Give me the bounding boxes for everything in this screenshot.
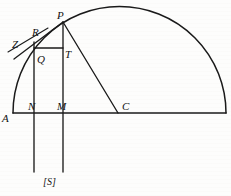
point-label-M: M — [57, 101, 66, 112]
point-label-S: [S] — [43, 177, 56, 187]
point-label-C: C — [122, 101, 129, 112]
segment-PC — [63, 22, 118, 113]
point-label-T: T — [65, 49, 71, 60]
geometry-figure: P R Z T Q N M C A [S] — [0, 0, 231, 196]
point-label-Q: Q — [37, 54, 45, 65]
point-label-Z: Z — [12, 39, 18, 50]
point-label-P: P — [57, 10, 64, 21]
point-label-A: A — [2, 113, 9, 124]
point-label-R: R — [32, 27, 39, 38]
point-label-N: N — [28, 101, 35, 112]
